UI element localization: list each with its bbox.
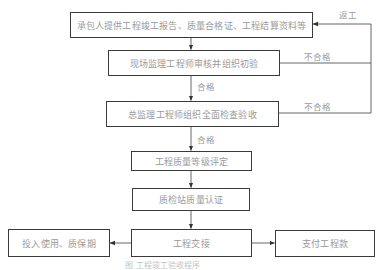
edge-label-pass-2: 合格 bbox=[197, 133, 215, 145]
node-label: 工程交接 bbox=[173, 237, 210, 250]
node-put-into-use: 投入使用、质保期 bbox=[8, 229, 110, 257]
edge-label-fail-1: 不合格 bbox=[304, 50, 331, 62]
edge-label-rework: 返工 bbox=[339, 8, 357, 20]
node-label: 支付工程款 bbox=[302, 237, 348, 250]
figure-caption: 图 工程竣工验收程序 bbox=[125, 259, 200, 270]
node-label: 现场监理工程师审核并组织初验 bbox=[130, 57, 259, 70]
node-label: 工程质量等级评定 bbox=[155, 155, 229, 168]
node-quality-certification: 质检站质量认证 bbox=[132, 188, 250, 211]
node-label: 质检站质量认证 bbox=[159, 193, 223, 206]
node-label: 承包人提供工程竣工报告、质量合格证、工程结算资料等 bbox=[77, 19, 307, 32]
node-submit-completion-report: 承包人提供工程竣工报告、质量合格证、工程结算资料等 bbox=[70, 12, 313, 38]
node-project-handover: 工程交接 bbox=[131, 229, 252, 257]
node-chief-supervisor-acceptance: 总监理工程师组织全面检查验收 bbox=[106, 101, 279, 127]
node-site-supervisor-inspection: 现场监理工程师审核并组织初验 bbox=[108, 50, 280, 76]
node-label: 投入使用、质保期 bbox=[22, 237, 96, 250]
node-quality-grading: 工程质量等级评定 bbox=[131, 151, 252, 171]
node-label: 总监理工程师组织全面检查验收 bbox=[128, 108, 257, 121]
edge-label-pass-1: 合格 bbox=[197, 80, 215, 92]
node-pay-project-fee: 支付工程款 bbox=[275, 230, 375, 257]
edge-label-fail-2: 不合格 bbox=[304, 100, 331, 112]
